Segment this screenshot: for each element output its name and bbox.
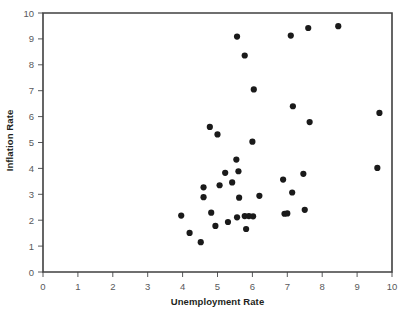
x-tick-label: 0 [40, 281, 45, 292]
y-tick-label: 1 [29, 241, 34, 252]
data-point [300, 171, 306, 177]
data-point [198, 239, 204, 245]
x-tick-label: 8 [320, 281, 325, 292]
data-point [305, 25, 311, 31]
data-point [335, 23, 341, 29]
data-point [243, 226, 249, 232]
data-point [225, 219, 231, 225]
x-tick-label: 9 [354, 281, 359, 292]
y-tick-label: 9 [29, 33, 34, 44]
data-point [256, 193, 262, 199]
y-tick-label: 10 [23, 8, 34, 19]
data-point [307, 119, 313, 125]
y-tick-label: 7 [29, 85, 34, 96]
axis-frame [43, 13, 392, 272]
data-point-group [178, 23, 382, 245]
x-axis-title: Unemployment Rate [43, 296, 392, 307]
data-point [208, 210, 214, 216]
data-point [200, 194, 206, 200]
plot-canvas: 012345678910 012345678910 [0, 0, 409, 324]
y-tick-label: 5 [29, 137, 34, 148]
data-point [302, 207, 308, 213]
y-tick-label: 2 [29, 215, 34, 226]
data-point [235, 168, 241, 174]
data-point [207, 124, 213, 130]
data-point [214, 131, 220, 137]
x-tick-label: 3 [145, 281, 150, 292]
data-point [234, 33, 240, 39]
data-point [178, 212, 184, 218]
y-tick-label: 0 [29, 267, 34, 278]
y-tick-label: 4 [29, 163, 34, 174]
x-axis-tick-labels: 012345678910 [40, 281, 397, 292]
data-point [233, 156, 239, 162]
data-point [376, 110, 382, 116]
data-point [200, 184, 206, 190]
y-tick-label: 3 [29, 189, 34, 200]
x-tick-label: 2 [110, 281, 115, 292]
data-point [186, 230, 192, 236]
data-point [242, 52, 248, 58]
y-tick-label: 6 [29, 111, 34, 122]
data-point [222, 170, 228, 176]
data-point [374, 165, 380, 171]
data-point [280, 176, 286, 182]
x-tick-label: 6 [250, 281, 255, 292]
data-point [251, 86, 257, 92]
data-point [236, 195, 242, 201]
x-tick-label: 1 [75, 281, 80, 292]
data-point [284, 210, 290, 216]
data-point [250, 213, 256, 219]
data-point [212, 223, 218, 229]
x-tick-label: 4 [180, 281, 185, 292]
x-tick-label: 10 [387, 281, 398, 292]
x-tick-label: 5 [215, 281, 220, 292]
scatter-chart: Inflation Rate 012345678910 012345678910… [0, 0, 409, 324]
data-point [234, 214, 240, 220]
x-tick-label: 7 [285, 281, 290, 292]
data-point [249, 139, 255, 145]
data-point [216, 182, 222, 188]
data-point [229, 179, 235, 185]
data-point [290, 103, 296, 109]
data-point [288, 32, 294, 38]
y-axis-tick-labels: 012345678910 [23, 8, 34, 278]
y-tick-label: 8 [29, 59, 34, 70]
data-point [289, 189, 295, 195]
